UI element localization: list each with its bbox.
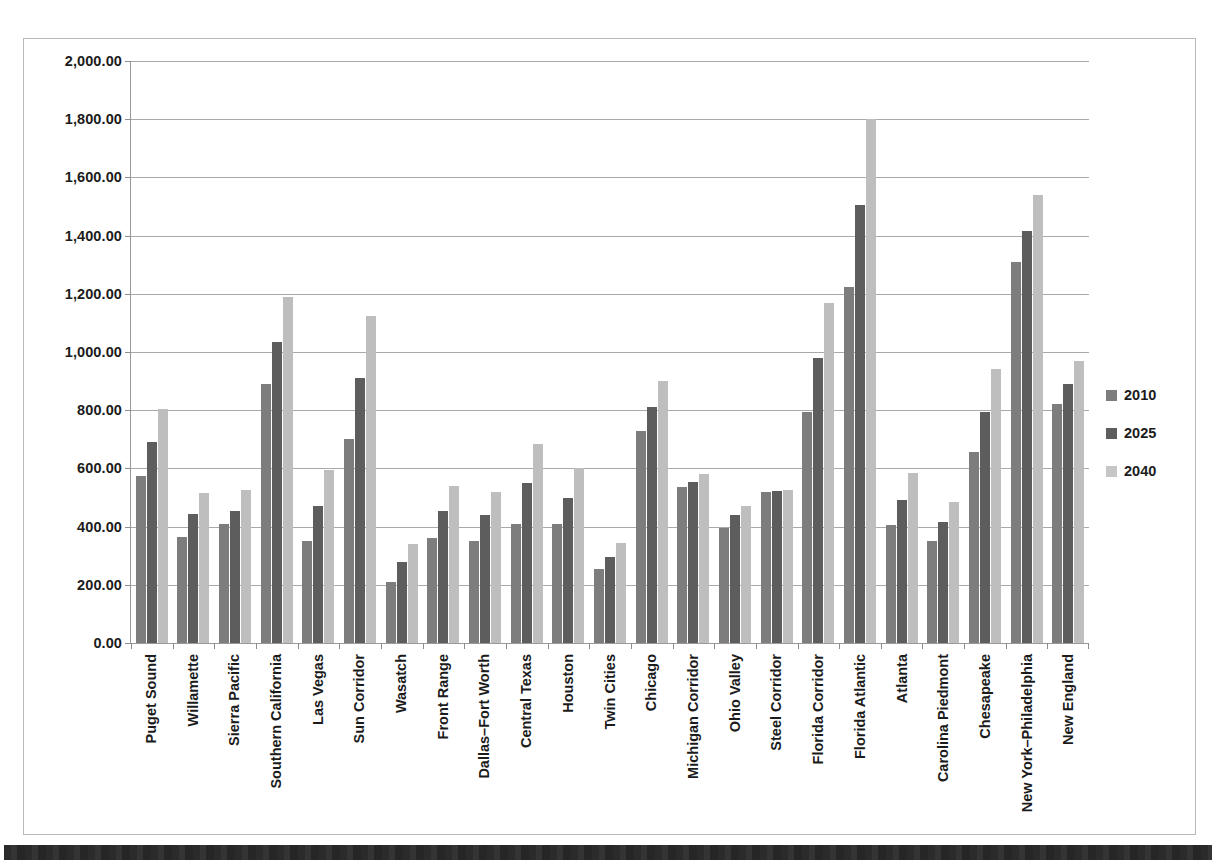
x-label-cell: Florida Atlantic <box>839 650 881 830</box>
bar-2025 <box>147 442 157 643</box>
x-axis-tick <box>964 643 965 649</box>
bar-2025 <box>730 515 740 643</box>
x-axis-category-label: Chicago <box>643 654 659 711</box>
x-axis-tick <box>173 643 174 649</box>
bar-group <box>1006 61 1048 643</box>
bar-2010 <box>469 541 479 643</box>
bar-2010 <box>802 412 812 643</box>
y-axis-tick-label: 1,800.00 <box>26 111 122 127</box>
bar-group <box>381 61 423 643</box>
scanned-page-frame: 0.00200.00400.00600.00800.001,000.001,20… <box>23 38 1196 835</box>
legend-item-2010: 2010 <box>1106 387 1196 403</box>
x-label-cell: Dallas–Fort Worth <box>464 650 506 830</box>
bar-2010 <box>552 524 562 643</box>
x-axis-category-label: New York–Philadelphia <box>1019 654 1035 812</box>
bar-2040 <box>699 474 709 643</box>
bar-2025 <box>647 407 657 643</box>
y-axis-tick-label: 400.00 <box>26 519 122 535</box>
bar-2025 <box>980 412 990 643</box>
x-axis-tick <box>673 643 674 649</box>
bar-group <box>173 61 215 643</box>
bar-2040 <box>783 490 793 643</box>
x-axis-tick <box>298 643 299 649</box>
x-axis-category-label: Puget Sound <box>143 654 159 743</box>
bar-2010 <box>302 541 312 643</box>
x-axis-category-label: Carolina Piedmont <box>935 654 951 782</box>
x-label-cell: Atlanta <box>881 650 923 830</box>
x-axis-tick <box>339 643 340 649</box>
x-axis-category-label: Las Vegas <box>310 654 326 725</box>
x-axis-category-label: New England <box>1060 654 1076 745</box>
x-axis-tick <box>256 643 257 649</box>
bar-2010 <box>177 537 187 643</box>
x-axis-tick <box>589 643 590 649</box>
bar-2040 <box>158 409 168 643</box>
y-axis-tick-label: 200.00 <box>26 577 122 593</box>
bar-2025 <box>480 515 490 643</box>
x-axis-tick <box>756 643 757 649</box>
bar-2010 <box>677 487 687 643</box>
bar-group <box>589 61 631 643</box>
bar-2040 <box>408 544 418 643</box>
legend-label: 2010 <box>1124 387 1156 403</box>
x-axis-tick-labels: Puget SoundWillametteSierra PacificSouth… <box>130 650 1089 830</box>
bar-2010 <box>969 452 979 643</box>
bar-group <box>839 61 881 643</box>
x-label-cell: Central Texas <box>505 650 547 830</box>
bar-groups <box>131 61 1089 643</box>
bar-2025 <box>897 500 907 643</box>
x-axis-category-label: Southern California <box>268 654 284 789</box>
x-axis-category-label: Chesapeake <box>977 654 993 739</box>
x-label-cell: Las Vegas <box>297 650 339 830</box>
bar-group <box>714 61 756 643</box>
bar-2025 <box>938 522 948 643</box>
bar-2040 <box>241 490 251 643</box>
x-label-cell: Florida Corridor <box>797 650 839 830</box>
bar-group <box>506 61 548 643</box>
bar-2010 <box>886 525 896 643</box>
x-label-cell: Sun Corridor <box>339 650 381 830</box>
x-axis-category-label: Atlanta <box>894 654 910 703</box>
x-axis-tick <box>1006 643 1007 649</box>
bar-2040 <box>533 444 543 643</box>
bar-2040 <box>324 470 334 643</box>
x-axis-tick <box>131 643 132 649</box>
y-axis-tick-label: 1,400.00 <box>26 228 122 244</box>
x-axis-tick <box>548 643 549 649</box>
bar-2025 <box>563 498 573 644</box>
x-axis-category-label: Houston <box>560 654 576 713</box>
y-axis-tick-label: 1,600.00 <box>26 169 122 185</box>
x-label-cell: Chesapeake <box>964 650 1006 830</box>
x-label-cell: Houston <box>547 650 589 830</box>
bar-2025 <box>230 511 240 643</box>
scan-edge-band <box>4 845 1212 860</box>
x-label-cell: Southern California <box>255 650 297 830</box>
x-axis-category-label: Willamette <box>185 654 201 726</box>
y-axis-tick-label: 1,200.00 <box>26 286 122 302</box>
bar-2010 <box>427 538 437 643</box>
bar-2040 <box>991 369 1001 643</box>
bar-2040 <box>491 492 501 643</box>
x-label-cell: Twin Cities <box>589 650 631 830</box>
x-axis-category-label: Wasatch <box>393 654 409 713</box>
bar-group <box>464 61 506 643</box>
bar-2040 <box>574 468 584 643</box>
bar-2040 <box>366 316 376 643</box>
bar-2010 <box>136 476 146 643</box>
bar-group <box>256 61 298 643</box>
x-axis-category-label: Florida Corridor <box>810 654 826 764</box>
bar-2010 <box>386 582 396 643</box>
bar-2025 <box>272 342 282 643</box>
y-axis-tick-label: 600.00 <box>26 460 122 476</box>
bar-2010 <box>636 431 646 643</box>
bar-2025 <box>1022 231 1032 643</box>
x-label-cell: Steel Corridor <box>756 650 798 830</box>
bar-2010 <box>719 528 729 643</box>
x-axis-tick <box>506 643 507 649</box>
bar-2040 <box>199 493 209 643</box>
bar-group <box>673 61 715 643</box>
x-axis-category-label: Florida Atlantic <box>852 654 868 759</box>
bar-2040 <box>741 506 751 643</box>
x-axis-category-label: Dallas–Fort Worth <box>476 654 492 779</box>
legend-swatch-icon <box>1106 390 1117 401</box>
